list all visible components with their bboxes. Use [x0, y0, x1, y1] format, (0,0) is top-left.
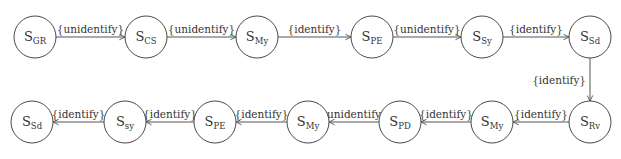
state-label-subscript: PD: [398, 121, 411, 131]
state-node-sd: SSd: [569, 16, 611, 58]
state-label-main: S: [580, 29, 589, 44]
edge: {identify}: [513, 108, 569, 122]
diagram-canvas: {unidentify}{unidentify}{identify}{unide…: [0, 0, 621, 159]
edge: {unidentify}: [320, 108, 387, 122]
state-label-main: S: [22, 114, 31, 129]
edge: {identify}: [278, 23, 351, 37]
edge: {identify}: [52, 108, 106, 122]
state-label-main: S: [481, 114, 490, 129]
edge-label: {unidentify}: [57, 23, 124, 36]
edge: {identify}: [143, 108, 197, 122]
state-label-main: S: [389, 114, 398, 129]
edge-label: {identify}: [514, 108, 568, 121]
state-label-main: S: [580, 114, 589, 129]
state-label-main: S: [116, 114, 125, 129]
state-label-subscript: Rv: [589, 121, 600, 131]
edge-label: {unidentify}: [393, 23, 460, 36]
state-label-subscript: CS: [144, 36, 157, 46]
state-node-rv: SRv: [569, 101, 611, 143]
state-label-subscript: PE: [370, 36, 382, 46]
state-node-my: SMy: [471, 101, 513, 143]
edge-label: {identify}: [52, 108, 106, 121]
state-node-my: SMy: [236, 16, 278, 58]
edge: {identify}: [532, 58, 590, 101]
state-node-sd: SSd: [11, 101, 53, 143]
state-label-subscript: Sd: [31, 121, 43, 131]
edge: {identify}: [419, 108, 473, 122]
state-label-subscript: My: [255, 36, 269, 46]
state-label-subscript: My: [306, 121, 320, 131]
state-label-subscript: PE: [213, 121, 225, 131]
state-diagram: {unidentify}{unidentify}{identify}{unide…: [0, 0, 621, 159]
state-node-pe: SPE: [194, 101, 236, 143]
state-node-gr: SGR: [14, 16, 56, 58]
state-label-subscript: sy: [125, 121, 134, 131]
edge: {unidentify}: [167, 23, 236, 37]
edge-label: {identify}: [235, 108, 289, 121]
edge-label: {identify}: [509, 23, 563, 36]
state-node-my: SMy: [287, 101, 329, 143]
state-label-main: S: [472, 29, 481, 44]
state-label-subscript: Sd: [589, 36, 601, 46]
state-label-main: S: [362, 29, 371, 44]
edge-label: {unidentify}: [168, 23, 235, 36]
state-node-cs: SCS: [125, 16, 167, 58]
state-label-main: S: [24, 29, 33, 44]
edge-label: {unidentify}: [320, 108, 387, 121]
state-label-main: S: [205, 114, 214, 129]
state-label-main: S: [297, 114, 306, 129]
edge: {unidentify}: [393, 23, 461, 37]
state-label-subscript: GR: [33, 36, 47, 46]
state-label-subscript: Sy: [481, 36, 492, 46]
state-node-pd: SPD: [379, 101, 421, 143]
state-label-main: S: [246, 29, 255, 44]
state-label-main: S: [135, 29, 144, 44]
state-label-subscript: My: [490, 121, 504, 131]
state-node-sy: SSy: [461, 16, 503, 58]
edge-label: {identify}: [419, 108, 473, 121]
edge-label: {identify}: [143, 108, 197, 121]
state-node-pe: SPE: [351, 16, 393, 58]
nodes-layer: SGRSCSSMySPESSySSdSRvSMySPDSMySPESsySSd: [11, 16, 611, 143]
edge-label: {identify}: [532, 74, 586, 87]
edge-label: {identify}: [288, 23, 342, 36]
edge: {unidentify}: [56, 23, 125, 37]
edge: {identify}: [235, 108, 289, 122]
state-node-sy: Ssy: [104, 101, 146, 143]
edge: {identify}: [503, 23, 569, 37]
